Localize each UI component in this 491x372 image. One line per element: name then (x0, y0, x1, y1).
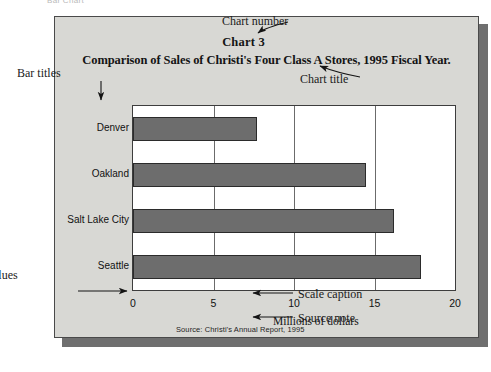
annotation-source-note: Source note (298, 311, 355, 326)
x-tick-label: 15 (369, 297, 381, 309)
chart-title: Comparison of Sales of Christi's Four Cl… (55, 53, 478, 68)
x-tick-label: 20 (449, 297, 461, 309)
page-caption: Bar Chart (47, 0, 84, 5)
bar-title-label: Salt Lake City (67, 214, 129, 225)
bar-series (133, 106, 455, 290)
source-note-text: Source: Christi's Annual Report, 1995 (176, 325, 305, 334)
annotation-bar-titles: Bar titles (17, 66, 61, 81)
annotation-chart-number: Chart number (222, 14, 288, 29)
annotation-scale-values: Scale values (0, 268, 18, 283)
bar (133, 163, 366, 187)
x-tick-label: 0 (130, 297, 136, 309)
bar (133, 117, 257, 141)
bar-title-label: Denver (97, 122, 129, 133)
plot-area: DenverOaklandSalt Lake CitySeattle051015… (132, 105, 456, 291)
figure-panel-inner: Chart 3 Comparison of Sales of Christi's… (55, 17, 478, 337)
annotation-scale-caption: Scale caption (298, 287, 362, 302)
bar-title-label: Seattle (98, 260, 129, 271)
bar (133, 255, 421, 279)
annotation-chart-title: Chart title (300, 72, 348, 87)
figure-panel: Chart 3 Comparison of Sales of Christi's… (54, 16, 479, 338)
bar-title-label: Oakland (92, 168, 129, 179)
bar (133, 209, 394, 233)
x-tick-label: 5 (211, 297, 217, 309)
chart-number: Chart 3 (55, 35, 478, 50)
